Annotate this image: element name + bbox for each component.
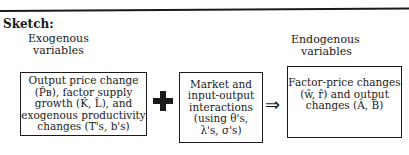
top-rule [0, 8, 409, 12]
exogenous-variables-label: Exogenous variables [28, 33, 89, 57]
sketch-heading: Sketch: [3, 17, 54, 31]
exogenous-label-line2: variables [28, 45, 89, 57]
market-interactions-box: Market and input-output interactions (us… [179, 72, 263, 143]
endogenous-label-line2: variables [291, 46, 360, 58]
endogenous-variables-label: Endogenous variables [291, 34, 360, 58]
box-line: λ's, σ's) [200, 125, 241, 137]
box-line: changes (T's, b's) [37, 121, 129, 133]
implies-arrow-icon: ⇒ [265, 96, 280, 114]
box-line: changes (Â, B̂) [306, 100, 384, 112]
endogenous-changes-box: Factor-price changes (ŵ, r̂) and output … [287, 66, 402, 138]
box-line: Factor-price changes [288, 77, 400, 89]
plus-icon [153, 91, 173, 111]
exogenous-changes-box: Output price change (P̂ʙ), factor supply… [20, 72, 147, 136]
